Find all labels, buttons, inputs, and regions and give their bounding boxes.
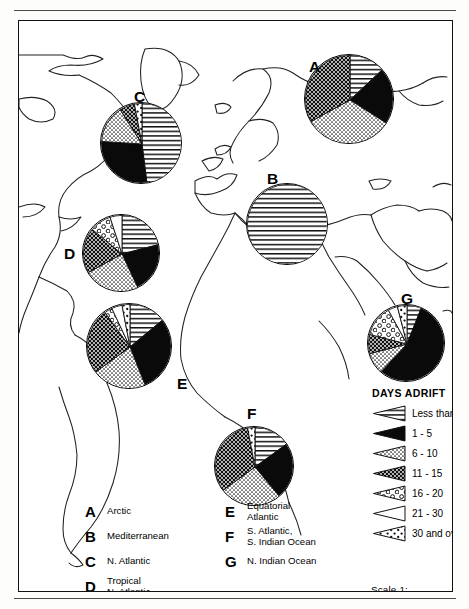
region-key-letter-g: G bbox=[225, 553, 247, 570]
legend-label-11_15: 11 - 15 bbox=[412, 468, 442, 479]
region-key-letter-a: A bbox=[85, 503, 107, 520]
pie-label-c: C bbox=[134, 89, 145, 105]
legend-label-1_5: 1 - 5 bbox=[412, 428, 432, 439]
region-key-letter-b: B bbox=[85, 528, 107, 545]
region-key-name-e: Equatorial Atlantic bbox=[247, 501, 290, 522]
region-key: A ArcticB MediterraneanC N. AtlanticD Tr… bbox=[85, 499, 375, 592]
page-rule-top bbox=[14, 10, 456, 11]
region-key-item-a: A Arctic bbox=[85, 499, 225, 524]
pie-chart-d bbox=[82, 214, 160, 292]
legend-item-less_than_1: Less than 1 bbox=[372, 403, 453, 423]
legend-item-30_over: 30 and over bbox=[372, 523, 453, 543]
legend-swatch-16_20 bbox=[372, 485, 406, 502]
region-key-item-e: E Equatorial Atlantic bbox=[225, 499, 365, 524]
region-key-item-d: D Tropical N. Atlantic bbox=[85, 574, 225, 592]
legend-label-30_over: 30 and over bbox=[412, 528, 453, 539]
legend-swatch-21_30 bbox=[372, 505, 406, 522]
page-rule-bottom bbox=[14, 598, 456, 599]
pie-label-g: G bbox=[401, 291, 413, 307]
legend-item-11_15: 11 - 15 bbox=[372, 463, 453, 483]
region-key-name-a: Arctic bbox=[107, 506, 131, 517]
legend-swatch-6_10 bbox=[372, 445, 406, 462]
pie-label-f: F bbox=[247, 406, 256, 422]
legend-label-less_than_1: Less than 1 bbox=[412, 408, 453, 419]
region-key-name-f: S. Atlantic, S. Indian Ocean bbox=[247, 526, 316, 547]
legend-item-6_10: 6 - 10 bbox=[372, 443, 453, 463]
legend-swatch-less_than_1 bbox=[372, 405, 406, 422]
legend-title: DAYS ADRIFT bbox=[372, 387, 453, 399]
legend-label-6_10: 6 - 10 bbox=[412, 448, 438, 459]
region-key-letter-f: F bbox=[225, 528, 247, 545]
legend-swatch-11_15 bbox=[372, 465, 406, 482]
figure-page: DAYS ADRIFT Less than 1 bbox=[0, 0, 469, 609]
region-key-letter-e: E bbox=[225, 503, 247, 520]
pie-chart-b bbox=[246, 183, 328, 265]
region-key-item-b: B Mediterranean bbox=[85, 524, 225, 549]
map-scale: Scale 1: 65,000,000 bbox=[371, 584, 452, 592]
pie-chart-g bbox=[367, 304, 445, 382]
region-key-letter-c: C bbox=[85, 553, 107, 570]
pie-chart-e bbox=[86, 303, 172, 389]
region-key-column-right: E Equatorial AtlanticF S. Atlantic, S. I… bbox=[225, 499, 365, 592]
pie-label-d: D bbox=[64, 246, 75, 262]
region-key-name-g: N. Indian Ocean bbox=[247, 556, 316, 567]
region-key-letter-d: D bbox=[85, 578, 107, 592]
legend-rows: Less than 1 1 - 5 6 - 10 11 - 15 16 - 20 bbox=[372, 403, 453, 543]
region-key-name-c: N. Atlantic bbox=[107, 556, 150, 567]
legend-label-21_30: 21 - 30 bbox=[412, 508, 443, 519]
region-key-item-c: C N. Atlantic bbox=[85, 549, 225, 574]
legend-item-16_20: 16 - 20 bbox=[372, 483, 453, 503]
map-frame: DAYS ADRIFT Less than 1 bbox=[18, 20, 453, 592]
pie-label-b: B bbox=[267, 171, 278, 187]
pie-chart-c bbox=[100, 102, 182, 184]
pie-label-a: A bbox=[309, 59, 320, 75]
legend-swatch-30_over bbox=[372, 525, 406, 542]
pie-slice-b-0 bbox=[247, 184, 328, 265]
pie-label-e: E bbox=[177, 376, 187, 392]
legend-item-21_30: 21 - 30 bbox=[372, 503, 453, 523]
days-adrift-legend: DAYS ADRIFT Less than 1 bbox=[372, 387, 453, 543]
legend-swatch-1_5 bbox=[372, 425, 406, 442]
region-key-item-f: F S. Atlantic, S. Indian Ocean bbox=[225, 524, 365, 549]
pie-chart-f bbox=[214, 426, 294, 506]
region-key-name-d: Tropical N. Atlantic bbox=[107, 576, 150, 592]
legend-label-16_20: 16 - 20 bbox=[412, 488, 443, 499]
region-key-name-b: Mediterranean bbox=[107, 531, 169, 542]
legend-item-1_5: 1 - 5 bbox=[372, 423, 453, 443]
region-key-item-g: G N. Indian Ocean bbox=[225, 549, 365, 574]
region-key-column-left: A ArcticB MediterraneanC N. AtlanticD Tr… bbox=[85, 499, 225, 592]
